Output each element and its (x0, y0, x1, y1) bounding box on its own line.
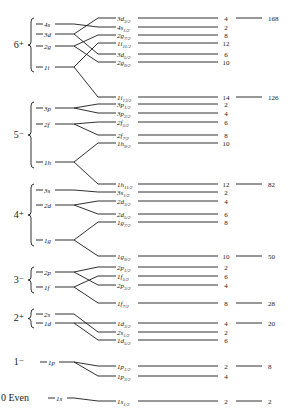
split-connector (74, 240, 98, 256)
level-label: 1i (44, 64, 50, 72)
shell-label: 3⁻ (14, 274, 24, 285)
degeneracy-value: 2 (224, 264, 228, 272)
sublevel-j: 5/2 (122, 123, 129, 128)
sublevel-label: 1f5/2 (117, 273, 129, 282)
sublevel-label: 2f5/2 (117, 119, 129, 128)
sublevel-j: 5/2 (124, 55, 131, 60)
shell-label: 6⁺ (14, 39, 24, 50)
split-connector (74, 122, 98, 124)
level-label: 1f (44, 284, 51, 292)
split-connector (74, 104, 98, 108)
sublevel-j: 7/2 (124, 223, 131, 228)
sublevel-label: 1p3/2 (117, 373, 131, 382)
split-connector (74, 18, 98, 34)
level-label: 1g (44, 237, 52, 245)
sublevel-j: 1/2 (124, 367, 131, 372)
sublevel-j: 5/2 (124, 341, 131, 346)
shell-brace (28, 102, 34, 168)
split-connector (74, 108, 98, 113)
split-connector (74, 272, 98, 285)
degeneracy-value: 6 (224, 51, 228, 59)
split-connector (74, 222, 98, 240)
sublevel-j: 9/2 (124, 257, 131, 262)
magic-number: 126 (268, 94, 279, 102)
sublevel-label: 2d3/2 (117, 198, 131, 207)
magic-number: 8 (268, 363, 272, 371)
level-label: 3d (43, 31, 52, 39)
split-connector (74, 124, 98, 135)
split-connector (74, 46, 98, 62)
split-connector (74, 287, 98, 303)
sublevel-j: 11/2 (124, 185, 133, 190)
sublevel-label: 1d3/2 (117, 320, 131, 329)
sublevel-j: 5/2 (124, 215, 131, 220)
split-connector (74, 201, 98, 205)
shell-brace (28, 267, 34, 293)
degeneracy-value: 4 (224, 198, 228, 206)
magic-number: 28 (268, 300, 276, 308)
level-label: 2f (44, 121, 51, 129)
degeneracy-value: 8 (224, 219, 228, 227)
level-label: 3s (43, 187, 51, 195)
split-connector (74, 205, 98, 214)
sublevel-label: 1h9/2 (117, 140, 131, 149)
degeneracy-value: 4 (224, 110, 228, 118)
sublevel-label: 1s1/2 (117, 398, 130, 407)
sublevel-label: 1g9/2 (117, 253, 131, 262)
split-connector (74, 398, 98, 401)
sublevel-j: 11/2 (122, 44, 131, 49)
sublevel-j: 3/2 (124, 324, 131, 329)
level-label: 1p (48, 359, 56, 367)
shell-label: 0 Even (1, 392, 29, 403)
degeneracy-value: 6 (224, 337, 228, 345)
degeneracy-value: 2 (224, 24, 228, 32)
sublevel-label: 2p1/2 (117, 264, 131, 273)
degeneracy-value: 4 (224, 373, 228, 381)
sublevel-j: 1/2 (124, 268, 131, 273)
sublevel-label: 2g9/2 (117, 59, 131, 68)
degeneracy-value: 6 (224, 273, 228, 281)
degeneracy-value: 2 (224, 398, 228, 406)
magic-number: 168 (268, 15, 279, 23)
sublevel-j: 7/2 (122, 304, 129, 309)
level-label: 2d (44, 202, 52, 210)
degeneracy-value: 8 (224, 32, 228, 40)
magic-number: 2 (268, 398, 272, 406)
degeneracy-value: 8 (224, 132, 228, 140)
sublevel-label: 3p3/2 (116, 110, 131, 119)
sublevel-j: 1/2 (123, 333, 130, 338)
sublevel-label: 1g7/2 (117, 219, 131, 228)
shell-label: 2⁺ (14, 312, 24, 323)
sublevel-label: 3s1/2 (116, 189, 130, 198)
magic-number: 82 (268, 181, 276, 189)
level-label: 2g (44, 43, 52, 51)
sublevel-j: 1/2 (124, 105, 131, 110)
split-connector (74, 67, 98, 97)
degeneracy-value: 2 (224, 189, 228, 197)
split-connector (74, 143, 98, 162)
sublevel-j: 3/2 (124, 377, 131, 382)
degeneracy-value: 2 (224, 363, 228, 371)
sublevel-label: 2p3/2 (117, 282, 131, 291)
shell-label: 4⁺ (14, 209, 24, 220)
sublevel-j: 1/2 (123, 28, 130, 33)
degeneracy-value: 4 (224, 282, 228, 290)
degeneracy-value: 10 (223, 59, 231, 67)
sublevel-j: 5/2 (122, 277, 129, 282)
degeneracy-value: 6 (224, 211, 228, 219)
level-label: 3p (43, 105, 52, 113)
degeneracy-value: 10 (223, 253, 231, 261)
split-connector (74, 267, 98, 272)
sublevel-label: 1p1/2 (117, 363, 131, 372)
shell-label: 1⁻ (14, 356, 24, 367)
degeneracy-value: 2 (224, 329, 228, 337)
sublevel-j: 1/2 (123, 193, 130, 198)
shell-label: 5⁻ (14, 129, 24, 140)
magic-number: 20 (268, 320, 276, 328)
level-label: 2s (44, 311, 51, 319)
shell-brace (28, 18, 34, 72)
degeneracy-value: 8 (224, 300, 228, 308)
split-connector (74, 323, 98, 340)
degeneracy-value: 4 (224, 320, 228, 328)
sublevel-j: 1/2 (123, 402, 130, 407)
